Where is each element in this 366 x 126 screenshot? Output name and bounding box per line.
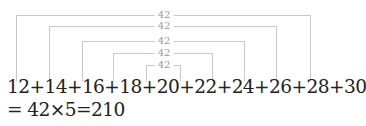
sum-result: = 42×5=210 xyxy=(7,99,125,120)
pair-sum-label: 42 xyxy=(155,48,174,58)
pair-sum-label: 42 xyxy=(155,60,174,70)
pair-sum-label: 42 xyxy=(155,36,174,46)
pair-sum-label: 42 xyxy=(155,21,174,31)
sum-expression: 12+14+16+18+20+22+24+26+28+30 xyxy=(7,76,366,97)
pair-sum-label: 42 xyxy=(155,10,174,20)
